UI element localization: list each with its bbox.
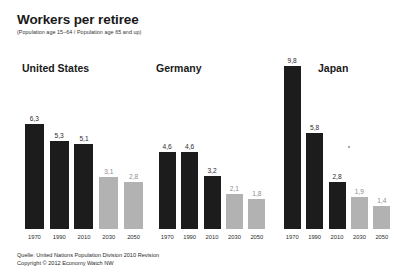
bar-slot: 2,8 — [121, 66, 146, 229]
footer-copyright: Copyright © 2012 Economy Watch NW — [17, 259, 159, 267]
bar-1990 — [306, 133, 323, 229]
x-axis-tick: 1990 — [178, 229, 200, 240]
bar-value-label: 2,8 — [121, 173, 146, 181]
x-axis-tick: 1970 — [156, 229, 178, 240]
bar-value-label: 6,3 — [22, 115, 47, 123]
plot-area: 9,85,82,81,91,419701990201020302050 — [281, 66, 393, 229]
bar-value-label: 1,8 — [246, 190, 268, 198]
bar-slot: 4,6 — [178, 66, 200, 229]
bar-value-label: 5,1 — [72, 135, 97, 143]
footer-source: Quelle: United Nations Population Divisi… — [17, 251, 159, 259]
bar-slot: 1,8 — [246, 66, 268, 229]
panel-germany: 4,64,63,22,11,819701990201020302050 — [156, 44, 268, 229]
bar-value-label: 1,4 — [371, 197, 393, 205]
bar-slot: 4,6 — [156, 66, 178, 229]
bar-value-label: 5,8 — [303, 124, 325, 132]
bar-value-label: 2,1 — [223, 185, 245, 193]
x-axis-tick: 1990 — [303, 229, 325, 240]
chart-subtitle: (Population age 15–64 / Population age 6… — [17, 29, 141, 35]
bar-value-label: 3,1 — [96, 168, 121, 176]
x-axis-tick: 2030 — [96, 229, 121, 240]
plot-area: 4,64,63,22,11,819701990201020302050 — [156, 66, 268, 229]
x-axis-tick: 2010 — [201, 229, 223, 240]
x-axis-tick: 2030 — [223, 229, 245, 240]
chart-page: Workers per retiree (Population age 15–6… — [0, 0, 402, 273]
panel-japan: 9,85,82,81,91,419701990201020302050 — [281, 44, 393, 229]
plot-area: 6,35,35,13,12,819701990201020302050 — [22, 66, 146, 229]
bar-2050 — [248, 199, 265, 229]
bar-slot: 6,3 — [22, 66, 47, 229]
bar-2050 — [373, 206, 390, 229]
bar-value-label: 4,6 — [156, 143, 178, 151]
bar-1990 — [181, 152, 198, 229]
bar-2010 — [74, 144, 93, 229]
bar-value-label: 4,6 — [178, 143, 200, 151]
bar-1990 — [50, 141, 69, 229]
bar-slot: 5,8 — [303, 66, 325, 229]
page-title: Workers per retiree — [17, 12, 139, 27]
chart-footer: Quelle: United Nations Population Divisi… — [17, 251, 159, 267]
bar-slot: 5,3 — [47, 66, 72, 229]
bar-slot: 2,8 — [326, 66, 348, 229]
x-axis-tick: 1970 — [22, 229, 47, 240]
bar-1970 — [159, 152, 176, 229]
bar-2010 — [204, 176, 221, 229]
x-axis-tick: 1970 — [281, 229, 303, 240]
x-axis: 19701990201020302050 — [156, 229, 268, 240]
x-axis: 19701990201020302050 — [281, 229, 393, 240]
x-axis-tick: 2010 — [72, 229, 97, 240]
bar-value-label: 9,8 — [281, 57, 303, 65]
bar-value-label: 1,9 — [348, 188, 370, 196]
bar-value-label: 3,2 — [201, 167, 223, 175]
bar-2050 — [124, 182, 143, 229]
x-axis-tick: 2050 — [246, 229, 268, 240]
bar-1970 — [25, 124, 44, 229]
bar-slot: 3,1 — [96, 66, 121, 229]
bar-slot: 1,9 — [348, 66, 370, 229]
bar-slot: 1,4 — [371, 66, 393, 229]
bar-slot: 5,1 — [72, 66, 97, 229]
scan-artifact-dot — [348, 146, 350, 148]
bar-slot: 2,1 — [223, 66, 245, 229]
bar-2010 — [329, 182, 346, 229]
bar-2030 — [226, 194, 243, 229]
bar-value-label: 2,8 — [326, 173, 348, 181]
x-axis: 19701990201020302050 — [22, 229, 146, 240]
bar-1970 — [284, 66, 301, 229]
x-axis-tick: 2010 — [326, 229, 348, 240]
x-axis-tick: 2050 — [371, 229, 393, 240]
x-axis-tick: 2030 — [348, 229, 370, 240]
panel-united-states: 6,35,35,13,12,819701990201020302050 — [22, 44, 146, 229]
bar-value-label: 5,3 — [47, 132, 72, 140]
bar-2030 — [99, 177, 118, 229]
bar-2030 — [351, 197, 368, 229]
x-axis-tick: 2050 — [121, 229, 146, 240]
bar-slot: 9,8 — [281, 66, 303, 229]
x-axis-tick: 1990 — [47, 229, 72, 240]
bar-slot: 3,2 — [201, 66, 223, 229]
